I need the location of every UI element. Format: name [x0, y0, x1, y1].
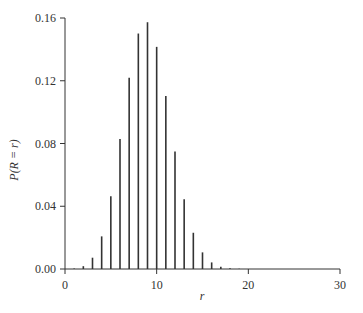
y-axis: 0.000.040.080.120.16 — [35, 11, 65, 276]
stems — [74, 22, 239, 269]
y-tick-label: 0.08 — [35, 137, 56, 151]
y-tick-label: 0.12 — [35, 74, 56, 88]
y-tick-label: 0.00 — [35, 262, 56, 276]
x-tick-label: 0 — [62, 278, 68, 292]
x-tick-label: 30 — [334, 278, 346, 292]
x-tick-label: 10 — [151, 278, 163, 292]
x-axis-label: r — [200, 289, 205, 303]
x-tick-label: 20 — [242, 278, 254, 292]
stem-chart: 0.000.040.080.120.16 0102030 P(R = r) r — [0, 0, 363, 313]
y-tick-label: 0.16 — [35, 11, 56, 25]
y-axis-label: P(R = r) — [7, 139, 21, 181]
y-tick-label: 0.04 — [35, 199, 56, 213]
